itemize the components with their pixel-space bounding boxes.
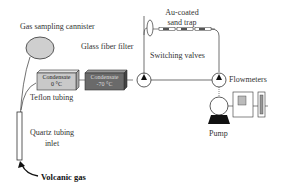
arrow-head-icon [18, 161, 25, 168]
condenser-minus70c-name: Condensate [85, 74, 124, 81]
label-au-coated: Au-coated [158, 9, 206, 17]
label-quartz-tubing: Quartz tubing [24, 129, 80, 137]
label-flowmeters: Flowmeters [229, 76, 267, 84]
condenser-0c-name: Condensate [37, 74, 76, 81]
condenser-0c-label: Condensate 0 °C [37, 74, 76, 87]
glass-fiber-filter [147, 20, 153, 36]
label-volcanic-gas: Volcanic gas [41, 173, 86, 182]
condenser-minus70c-temp: -70 °C [85, 81, 124, 88]
volcanic-gas-arrow [22, 165, 38, 176]
gas-sampling-cannister [26, 37, 54, 59]
label-teflon-tubing: Teflon tubing [30, 94, 73, 102]
label-inlet: inlet [24, 140, 80, 148]
label-switching-valves: Switching valves [150, 52, 205, 60]
label-sand-trap: sand trap [158, 19, 206, 27]
label-gas-sampling-cannister: Gas sampling cannister [20, 23, 95, 31]
pump [208, 97, 230, 124]
label-pump: Pump [209, 130, 228, 138]
condenser-minus70c-label: Condensate -70 °C [85, 74, 124, 87]
au-coated-sand-trap [153, 28, 215, 31]
flowmeters [233, 92, 268, 117]
condenser-0c-temp: 0 °C [37, 81, 76, 88]
label-glass-fiber-filter: Glass fiber filter [81, 43, 133, 51]
quartz-tubing-inlet [17, 112, 22, 160]
